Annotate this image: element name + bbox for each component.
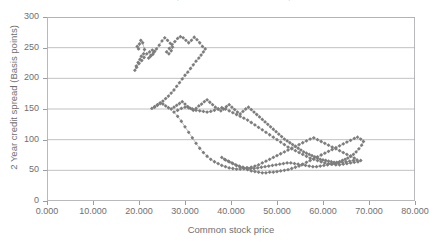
data-point — [282, 162, 286, 166]
data-point — [290, 167, 294, 171]
x-tick-label: 80.000 — [401, 207, 429, 216]
data-point — [282, 168, 286, 172]
data-point — [296, 146, 300, 150]
y-tick-label: 300 — [24, 12, 39, 21]
x-tick-mark — [415, 201, 416, 205]
chart-title: 2 Year credit spread versus common stock… — [0, 0, 429, 3]
data-point — [260, 161, 264, 165]
data-point — [316, 138, 320, 142]
data-point — [231, 111, 235, 115]
data-point — [293, 162, 297, 166]
plot-canvas — [47, 17, 415, 201]
x-tick-mark — [231, 201, 232, 205]
data-point — [349, 154, 353, 158]
data-point — [294, 165, 298, 169]
x-tick-label: 20.000 — [125, 207, 153, 216]
data-point — [285, 161, 289, 165]
data-point — [133, 68, 137, 72]
data-point — [286, 168, 290, 172]
data-point — [286, 145, 290, 149]
data-point — [238, 114, 242, 118]
data-point — [143, 48, 147, 52]
series-markers — [133, 35, 365, 175]
data-point — [289, 161, 293, 165]
x-tick-label: 60.000 — [309, 207, 337, 216]
data-point — [268, 170, 272, 174]
data-point — [179, 106, 183, 110]
data-point — [183, 105, 187, 109]
data-point — [271, 156, 275, 160]
data-point — [327, 143, 331, 147]
x-axis-title: Common stock price — [47, 224, 415, 235]
data-point — [224, 165, 228, 169]
data-point — [315, 165, 319, 169]
data-point — [305, 154, 309, 158]
data-point — [209, 110, 213, 114]
data-point — [138, 42, 142, 46]
data-point — [268, 157, 272, 161]
data-point — [356, 135, 360, 139]
data-point — [213, 160, 217, 164]
data-point — [319, 140, 323, 144]
data-point — [288, 141, 292, 145]
data-point — [312, 136, 316, 140]
data-point — [279, 140, 283, 144]
data-point — [318, 164, 322, 168]
data-point — [260, 128, 264, 132]
plot-area — [47, 17, 415, 201]
data-point — [279, 169, 283, 173]
data-point — [279, 152, 283, 156]
x-tick-mark — [369, 201, 370, 205]
data-point — [349, 138, 353, 142]
data-point — [323, 151, 327, 155]
data-point — [297, 143, 301, 147]
data-point — [216, 162, 220, 166]
data-point — [323, 141, 327, 145]
data-point — [311, 165, 315, 169]
x-tick-label: 70.000 — [355, 207, 383, 216]
data-point — [175, 103, 179, 107]
data-point — [231, 167, 235, 171]
data-point — [267, 164, 271, 168]
data-point — [256, 166, 260, 170]
data-point — [259, 165, 263, 169]
data-point — [271, 170, 275, 174]
x-tick-mark — [185, 201, 186, 205]
x-tick-mark — [323, 201, 324, 205]
x-tick-mark — [277, 201, 278, 205]
data-point — [253, 123, 257, 127]
y-tick-label: 250 — [24, 43, 39, 52]
data-point — [202, 110, 206, 114]
data-point — [249, 121, 253, 125]
data-point — [246, 118, 250, 122]
data-point — [294, 149, 298, 153]
data-point — [268, 133, 272, 137]
data-point — [260, 171, 264, 175]
data-point — [219, 109, 223, 113]
data-point — [319, 153, 323, 157]
y-axis-title: 2 Year credit spread (Basis points) — [8, 3, 19, 193]
data-point — [264, 171, 268, 175]
data-point — [294, 145, 298, 149]
data-point — [338, 149, 342, 153]
data-point — [216, 107, 220, 111]
x-tick-label: 50.000 — [263, 207, 291, 216]
data-point — [275, 138, 279, 142]
data-point — [338, 144, 342, 148]
data-point — [330, 145, 334, 149]
data-point — [205, 110, 209, 114]
data-point — [264, 130, 268, 134]
data-point — [264, 159, 268, 163]
x-tick-mark — [93, 201, 94, 205]
x-tick-mark — [47, 201, 48, 205]
data-point — [345, 152, 349, 156]
data-point — [187, 130, 191, 134]
data-point — [341, 151, 345, 155]
data-point — [291, 143, 295, 147]
y-tick-label: 150 — [24, 104, 39, 113]
data-point — [278, 162, 282, 166]
data-point — [271, 164, 275, 168]
x-tick-label: 40.000 — [217, 207, 245, 216]
x-tick-label: 10.000 — [79, 207, 107, 216]
data-point — [190, 136, 194, 140]
